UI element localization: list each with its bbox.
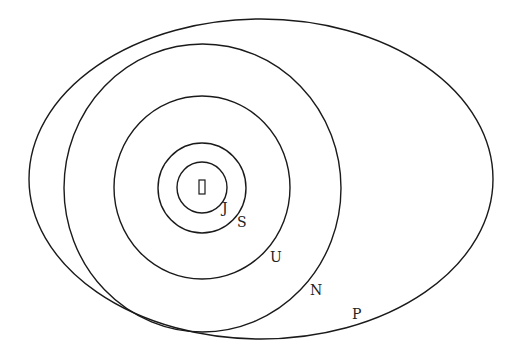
pluto-orbit: [29, 19, 493, 339]
orbit-diagram: J S U N P: [0, 0, 517, 356]
orbit-diagram-canvas: J S U N P: [0, 0, 517, 356]
jupiter-label: J: [220, 200, 228, 216]
saturn-label: S: [237, 214, 247, 230]
neptune-label: N: [310, 282, 322, 298]
uranus-label: U: [270, 249, 282, 265]
sun-marker: [199, 180, 205, 194]
pluto-label: P: [352, 306, 361, 322]
